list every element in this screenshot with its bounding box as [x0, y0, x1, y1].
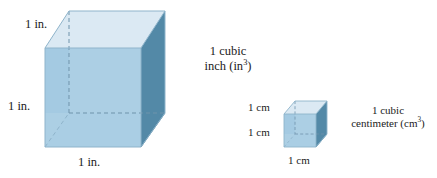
centimeter-cube-front-shade [284, 114, 295, 134]
inch-cube-width-label: 1 in. [78, 155, 100, 170]
inch-cube-caption-line1: 1 cubic [180, 44, 276, 59]
inch-cube-caption-unit: inch (in [205, 59, 244, 73]
centimeter-cube-depth-label: 1 cm [248, 101, 270, 114]
centimeter-cube-caption-line1: 1 cubic [339, 104, 437, 117]
inch-cube-caption: 1 cubic inch (in3) [180, 44, 276, 75]
inch-cube-caption-paren: ) [247, 59, 251, 73]
centimeter-cube-caption: 1 cubic centimeter (cm3) [339, 104, 437, 131]
inch-cube-depth-label: 1 in. [25, 17, 47, 32]
inch-cube-front-shade [45, 48, 69, 113]
inch-cube-caption-line2: inch (in3) [180, 59, 276, 74]
inch-cube-drawing [34, 6, 174, 154]
figure-canvas: 1 in. 1 in. 1 in. 1 cubic inch (in3) 1 c… [0, 0, 437, 178]
inch-cube-height-label: 1 in. [8, 99, 30, 114]
centimeter-cube-caption-line2: centimeter (cm3) [339, 117, 437, 130]
centimeter-cube-width-label: 1 cm [288, 154, 310, 167]
centimeter-cube-drawing [280, 97, 332, 153]
centimeter-cube-height-label: 1 cm [248, 126, 270, 139]
centimeter-cube-caption-unit: centimeter (cm [351, 117, 417, 129]
centimeter-cube-caption-paren: ) [421, 117, 425, 129]
